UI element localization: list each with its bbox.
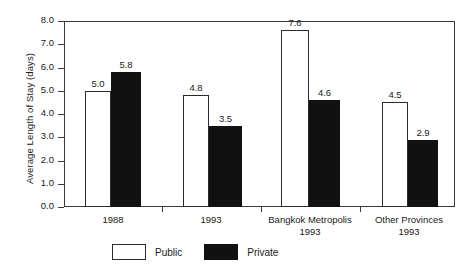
y-axis-tick-mark [58,44,64,45]
bar-chart: Average Length of Stay (days) 0.01.02.03… [0,0,475,275]
y-axis-tick-label: 5.0 [41,84,54,95]
bar-value-label: 7.6 [269,17,321,28]
legend-entry-public: Public [112,244,182,260]
bar-private [408,140,438,207]
category-label-main: Other Provinces [375,214,443,225]
y-axis-tick-label: 8.0 [41,14,54,25]
bar-value-label: 4.8 [171,82,221,93]
y-axis-tick-mark [58,161,64,162]
bar-public [85,91,111,207]
y-axis-tick-mark [58,137,64,138]
y-axis-title: Average Length of Stay (days) [24,19,35,219]
legend-label-public: Public [155,247,182,258]
y-axis-tick-label: 6.0 [41,61,54,72]
x-axis-tick-mark [261,207,262,212]
category-label-main: 1993 [200,214,221,225]
y-axis-tick-mark [58,91,64,92]
bar-value-label: 3.5 [197,113,254,124]
y-axis-tick-mark [58,21,64,22]
bar-private [209,126,242,207]
y-axis-tick-mark [58,184,64,185]
legend-swatch-public-icon [112,244,146,260]
bar-value-label: 4.6 [297,87,352,98]
bar-public [382,102,408,207]
y-axis-tick-label: 7.0 [41,37,54,48]
x-axis-category-label: Other Provinces1993 [339,214,475,237]
y-axis-tick-label: 0.0 [41,200,54,211]
legend: Public Private [112,244,278,260]
bar-public [281,30,309,207]
y-axis-tick-label: 2.0 [41,154,54,165]
bar-value-label: 2.9 [396,127,450,138]
bar-value-label: 5.8 [99,59,153,70]
y-axis-tick-label: 3.0 [41,130,54,141]
y-axis-tick-label: 4.0 [41,107,54,118]
x-axis-tick-mark [360,207,361,212]
y-axis-tick-mark [58,207,64,208]
legend-label-private: Private [247,247,278,258]
legend-swatch-private-icon [204,244,238,260]
y-axis-tick-mark [58,68,64,69]
x-axis-tick-mark [162,207,163,212]
bar-private [309,100,340,207]
category-label-main: 1988 [102,214,123,225]
y-axis-tick-mark [58,114,64,115]
bar-value-label: 4.5 [370,89,420,100]
legend-entry-private: Private [204,244,278,260]
y-axis-tick-label: 1.0 [41,177,54,188]
category-label-sub: 1993 [339,226,475,238]
bar-private [111,72,141,207]
